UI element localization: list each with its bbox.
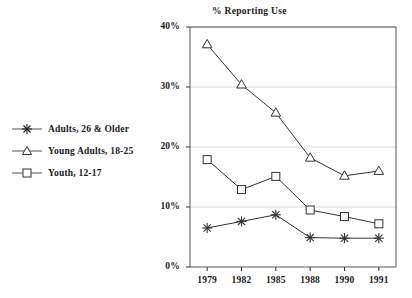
chart-legend: Adults, 26 & Older Young Adults, 18-25 Y…: [12, 118, 162, 184]
data-point-marker: [341, 213, 349, 221]
legend-item-label: Adults, 26 & Older: [42, 124, 129, 134]
y-tick-label: 10%: [146, 201, 180, 211]
data-point-marker: [238, 186, 246, 194]
data-point-marker: [340, 233, 350, 243]
data-point-marker: [374, 166, 384, 174]
series-line: [207, 160, 379, 224]
square-marker-icon: [12, 165, 42, 181]
data-point-marker: [305, 233, 315, 243]
data-point-marker: [271, 108, 281, 116]
data-point-marker: [272, 172, 280, 180]
y-tick-label: 40%: [146, 21, 180, 31]
asterisk-marker-icon: [12, 121, 42, 137]
y-tick-label: 30%: [146, 81, 180, 91]
legend-item[interactable]: Young Adults, 18-25: [12, 140, 162, 162]
data-point-marker: [203, 156, 211, 164]
chart-figure: % Reporting Use Adults, 26 & Older: [0, 0, 412, 298]
data-point-marker: [306, 206, 314, 214]
legend-item-label: Youth, 12-17: [42, 168, 102, 178]
y-tick-label: 0%: [146, 261, 180, 271]
data-point-marker: [237, 216, 247, 226]
y-tick-label: 20%: [146, 141, 180, 151]
chart-title: % Reporting Use: [212, 6, 287, 16]
data-point-marker: [202, 39, 212, 47]
data-point-marker: [375, 220, 383, 228]
x-tick-label: 1991: [359, 275, 399, 285]
legend-item[interactable]: Adults, 26 & Older: [12, 118, 162, 140]
series-line: [207, 44, 379, 175]
data-point-marker: [202, 223, 212, 233]
data-point-marker: [374, 233, 384, 243]
data-point-marker: [271, 210, 281, 220]
legend-item-label: Young Adults, 18-25: [42, 146, 133, 156]
legend-item[interactable]: Youth, 12-17: [12, 162, 162, 184]
triangle-marker-icon: [12, 143, 42, 159]
